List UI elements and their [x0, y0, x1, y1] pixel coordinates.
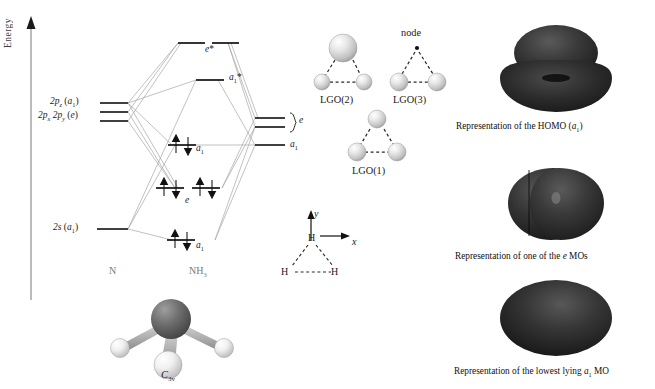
lgo1-sphere-left [348, 143, 366, 161]
inset-atom-h-left: H [281, 266, 288, 277]
mo-label-e-star: e* [205, 44, 214, 54]
orbital-caption-homo: Representation of the HOMO (a1) [456, 121, 583, 133]
lgo-bracket-label-e: e [299, 115, 303, 125]
lgo-levels [255, 118, 285, 145]
node-label: node [401, 27, 421, 38]
nitrogen-ao-levels [97, 103, 128, 229]
inset-atom-h-top: H [308, 232, 315, 243]
energy-axis [27, 16, 36, 300]
molecule-caption-c3v: C3v [161, 369, 175, 382]
lgo-e-bracket [290, 113, 296, 132]
ao-label-2pz: 2pz (a1) [50, 96, 79, 108]
fragment-label-nh3: NH3 [189, 265, 207, 278]
axis-label-x: x [352, 236, 356, 247]
mo-label-a1-homo: a1 [196, 143, 204, 155]
lgo1-caption: LGO(1) [352, 165, 385, 176]
nh3-molecule-model [111, 299, 234, 379]
axes-inset [292, 210, 350, 272]
fragment-label-n: N [109, 265, 116, 276]
orbital-render-e-mo [508, 168, 604, 240]
ao-label-2px-2py: 2px 2py (e) [38, 110, 78, 122]
lgo2-diagram [314, 34, 372, 90]
lgo1-diagram [348, 110, 406, 161]
lgo3-sphere-left [390, 73, 408, 91]
lgo3-diagram [390, 46, 446, 91]
mo-label-a1-star: a1* [229, 72, 242, 84]
energy-axis-label: Energy [2, 18, 13, 48]
figure-canvas [0, 0, 655, 389]
orbital-render-homo [500, 25, 612, 112]
atom-hydrogen-right [215, 339, 234, 358]
orbital-caption-e-mo: Representation of one of the e MOs [455, 251, 588, 261]
mo-label-a1-low: a1 [196, 240, 204, 252]
atom-hydrogen-left [111, 339, 130, 358]
orbital-caption-a1-low: Representation of the lowest lying a1 MO [454, 366, 609, 378]
mo-label-e-bond: e [185, 195, 189, 205]
lgo2-sphere-right [356, 74, 372, 90]
lgo3-caption: LGO(3) [393, 94, 426, 105]
electrons [161, 135, 216, 250]
inset-atom-h-right: H [331, 266, 338, 277]
lgo3-sphere-right [428, 73, 446, 91]
lgo-label-a1: a1 [290, 139, 298, 151]
figure-root: Energy 2pz (a1) 2px 2py (e) 2s (a1) e* a… [0, 0, 655, 389]
atom-nitrogen [151, 299, 191, 339]
lgo2-sphere-left [314, 74, 330, 90]
lgo3-node-dot [415, 46, 419, 50]
lgo1-sphere-top [368, 110, 386, 128]
ao-label-2s: 2s (a1) [53, 222, 78, 234]
lgo2-sphere-top [329, 34, 357, 62]
axis-label-y: y [314, 208, 318, 219]
orbital-render-a1-low [500, 280, 612, 356]
lgo2-caption: LGO(2) [320, 94, 353, 105]
lgo1-sphere-right [388, 143, 406, 161]
